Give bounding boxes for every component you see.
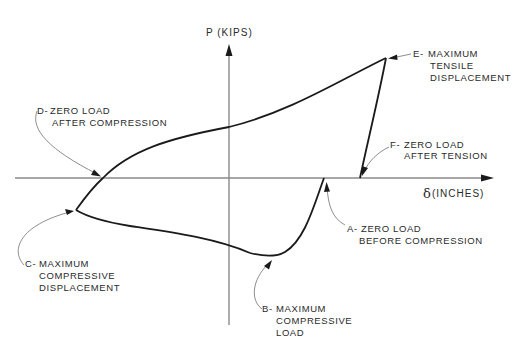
callout-a: A- ZERO LOAD BEFORE COMPRESSION: [347, 223, 483, 246]
curve-segment-b-c: [76, 210, 250, 253]
p-axis-label: P (KIPS): [206, 27, 253, 38]
callout-c-line2: COMPRESSIVE: [39, 270, 115, 281]
leader-c-arrowhead: [65, 209, 74, 215]
callout-e-line3: DISPLACEMENT: [430, 72, 511, 83]
callout-c-line1: MAXIMUM: [39, 258, 89, 269]
callout-b-line3: LOAD: [276, 327, 304, 338]
leader-b: [254, 260, 272, 309]
callout-e: E- MAXIMUM TENSILE DISPLACEMENT: [413, 48, 511, 83]
p-axis-arrowhead: [226, 44, 233, 56]
callout-c-prefix: C-: [25, 258, 36, 269]
callout-b-prefix: B-: [262, 303, 273, 314]
callout-a-line1: ZERO LOAD: [361, 223, 421, 234]
callout-c: C- MAXIMUM COMPRESSIVE DISPLACEMENT: [25, 258, 120, 293]
callout-f-prefix: F-: [390, 139, 400, 150]
leader-e-arrowhead: [388, 55, 398, 61]
delta-axis-arrowhead: [481, 175, 494, 182]
leader-f-arrowhead: [362, 166, 368, 176]
callout-d-line1: ZERO LOAD: [50, 105, 110, 116]
leader-c: [18, 209, 74, 265]
callout-a-prefix: A-: [347, 223, 358, 234]
callout-e-prefix: E-: [413, 48, 424, 59]
callout-e-line1: MAXIMUM: [428, 48, 478, 59]
curve-segment-c-d-e: [76, 58, 386, 210]
callout-d-line2: AFTER COMPRESSION: [52, 117, 167, 128]
callout-c-line3: DISPLACEMENT: [39, 282, 120, 293]
curve-segment-e-f: [360, 58, 386, 178]
leader-a: [324, 182, 345, 225]
callout-d-prefix: D-: [37, 105, 48, 116]
callout-f-line1: ZERO LOAD: [404, 139, 464, 150]
callout-b-line2: COMPRESSIVE: [276, 315, 352, 326]
leader-a-arrowhead: [324, 182, 330, 192]
leader-d-arrowhead: [91, 170, 101, 177]
callout-e-line2: TENSILE: [430, 60, 474, 71]
hysteresis-diagram: P (KIPS) δ (INCHES) E- MAXIMUM TENSILE D…: [0, 0, 516, 354]
delta-symbol: δ: [423, 186, 431, 201]
curve-segment-a-b: [250, 178, 324, 256]
leader-b-arrowhead: [264, 260, 272, 270]
callout-b-line1: MAXIMUM: [276, 303, 326, 314]
callout-b: B- MAXIMUM COMPRESSIVE LOAD: [262, 303, 352, 338]
hysteresis-curve: [76, 58, 386, 256]
callout-f-line2: AFTER TENSION: [404, 150, 488, 161]
callout-f: F- ZERO LOAD AFTER TENSION: [390, 139, 488, 161]
delta-axis-label: (INCHES): [432, 188, 484, 199]
callout-d: D- ZERO LOAD AFTER COMPRESSION: [37, 105, 167, 128]
callout-a-line2: BEFORE COMPRESSION: [359, 235, 483, 246]
leader-e: [388, 54, 411, 60]
